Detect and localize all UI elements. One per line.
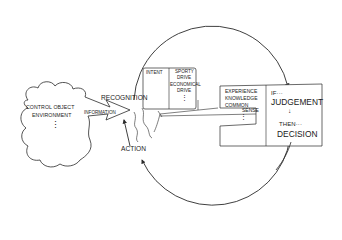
intent-option-drive-2: DRIVE (177, 89, 191, 94)
knowledge-item-knowledge: KNOWLEDGE (225, 96, 258, 101)
information-label: INFORMATION (84, 111, 116, 116)
then-label: THEN··· (279, 121, 302, 127)
intent-option-sporty: SPORTY (175, 70, 194, 75)
environment-label-line2: ENVIRONMENT (32, 113, 71, 118)
intent-option-drive-1: DRIVE (177, 76, 191, 81)
if-label: IF··· (271, 90, 283, 96)
intent-label: INTENT (146, 71, 163, 76)
judgement-label: JUDGEMENT (271, 98, 323, 106)
intent-option-economical: ECONOMICAL (170, 83, 201, 88)
environment-ellipsis: ⋮ (51, 121, 60, 130)
decision-label: DECISION (277, 130, 318, 138)
recognition-label: RECOGNITION (101, 95, 148, 102)
knowledge-item-experience: EXPERIENCE (225, 89, 257, 94)
knowledge-ellipsis: ⋮ (240, 113, 247, 120)
action-arrow (124, 120, 130, 146)
intent-ellipsis: ⋮ (181, 94, 188, 101)
action-label: ACTION (121, 146, 146, 153)
judgement-arrow: ↓ (288, 108, 291, 115)
environment-label-line1: CONTROL OBJECT (26, 105, 74, 110)
